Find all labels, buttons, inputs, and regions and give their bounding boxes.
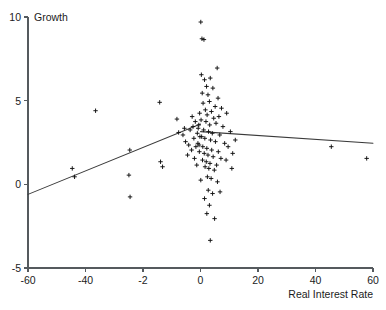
y-axis-tick-label: 5: [15, 95, 21, 107]
data-point: [207, 99, 211, 103]
y-axis-tick-label: 0: [15, 178, 21, 190]
data-point: [192, 156, 196, 160]
regression-line-downward-segment: [201, 132, 374, 144]
data-point: [197, 123, 201, 127]
data-point: [190, 114, 194, 118]
data-point: [216, 96, 220, 100]
data-point: [364, 156, 368, 160]
data-point: [204, 119, 208, 123]
data-point: [175, 117, 179, 121]
data-point: [208, 76, 212, 80]
x-axis-title: Real Interest Rate: [288, 288, 373, 300]
data-point: [221, 124, 225, 128]
data-point: [222, 141, 226, 145]
data-point: [195, 131, 199, 135]
data-point: [212, 216, 216, 220]
data-point: [208, 123, 212, 127]
data-point: [205, 113, 209, 117]
x-axis-tick-label: 60: [367, 274, 379, 286]
data-point: [197, 111, 201, 115]
data-point: [200, 91, 204, 95]
data-point: [199, 118, 203, 122]
data-point: [231, 151, 235, 155]
data-point: [205, 146, 209, 150]
data-point: [215, 66, 219, 70]
data-point: [215, 180, 219, 184]
x-axis-tick-label: 0: [198, 274, 204, 286]
data-point: [199, 20, 203, 24]
data-point: [127, 173, 131, 177]
data-point: [181, 133, 185, 137]
data-point: [212, 116, 216, 120]
data-point: [216, 150, 220, 154]
data-point: [128, 148, 132, 152]
y-axis-tick-label: 10: [9, 11, 21, 23]
data-point: [199, 73, 203, 77]
data-point: [195, 163, 199, 167]
x-axis-tick-label: -60: [20, 274, 35, 286]
data-point: [202, 196, 206, 200]
data-point: [206, 93, 210, 97]
data-point: [226, 144, 230, 148]
x-axis-tick-label: -40: [78, 274, 93, 286]
data-point: [208, 238, 212, 242]
data-point: [210, 148, 214, 152]
data-point: [185, 153, 189, 157]
data-point: [212, 168, 216, 172]
data-point: [209, 109, 213, 113]
chart-canvas: -60-40-20204060-50510GrowthReal Interest…: [0, 0, 386, 310]
data-point: [210, 191, 214, 195]
data-point: [214, 163, 218, 167]
axis-labels-group: -60-40-20204060-50510GrowthReal Interest…: [9, 11, 379, 300]
data-point: [217, 114, 221, 118]
y-axis-tick-label: -5: [12, 262, 21, 274]
data-point: [189, 148, 193, 152]
data-point: [128, 195, 132, 199]
data-point: [158, 160, 162, 164]
data-point: [207, 203, 211, 207]
regression-line-upward-segment: [28, 124, 201, 194]
data-point: [211, 86, 215, 90]
data-point: [202, 78, 206, 82]
data-point: [211, 155, 215, 159]
data-point: [93, 109, 97, 113]
data-point: [157, 100, 161, 104]
data-point: [224, 158, 228, 162]
data-point: [193, 119, 197, 123]
y-axis-title: Growth: [34, 11, 68, 23]
data-point: [208, 138, 212, 142]
data-point: [183, 139, 187, 143]
data-point: [204, 84, 208, 88]
data-point: [213, 104, 217, 108]
data-point: [203, 108, 207, 112]
data-point: [192, 136, 196, 140]
data-point: [329, 144, 333, 148]
data-point: [199, 178, 203, 182]
x-axis-tick-label: -2: [138, 274, 147, 286]
data-point: [205, 211, 209, 215]
data-point: [224, 111, 228, 115]
data-point: [206, 188, 210, 192]
data-point: [196, 126, 200, 130]
data-point: [187, 143, 191, 147]
scatter-plot-figure: -60-40-20204060-50510GrowthReal Interest…: [0, 0, 386, 310]
data-points-group: [70, 20, 369, 243]
data-point: [213, 139, 217, 143]
x-axis-tick-label: 20: [252, 274, 264, 286]
data-point: [219, 106, 223, 110]
data-point: [214, 121, 218, 125]
data-point: [218, 190, 222, 194]
data-point: [219, 156, 223, 160]
fit-lines-group: [28, 124, 373, 194]
axes-group: [24, 17, 373, 272]
data-point: [201, 101, 205, 105]
data-point: [70, 166, 74, 170]
data-point: [160, 165, 164, 169]
data-point: [230, 166, 234, 170]
data-point: [233, 138, 237, 142]
x-axis-tick-label: 40: [310, 274, 322, 286]
data-point: [197, 150, 201, 154]
